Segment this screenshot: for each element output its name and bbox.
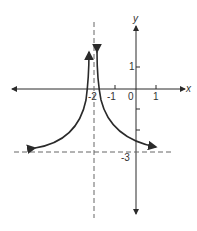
tick-label-0: 0 (128, 92, 134, 102)
graph-figure: y x -2 -1 0 1 1 -3 (0, 0, 197, 231)
tick-label-neg1: -1 (107, 92, 116, 102)
left-branch-curve (35, 52, 89, 148)
tick-label-neg3: -3 (121, 153, 130, 163)
right-branch-curve (97, 52, 156, 147)
tick-label-1y: 1 (129, 62, 135, 72)
graph-canvas (0, 0, 197, 231)
y-axis-label: y (133, 14, 138, 24)
tick-label-1x: 1 (153, 92, 159, 102)
tick-label-neg2: -2 (88, 92, 97, 102)
x-axis-label: x (186, 84, 191, 94)
